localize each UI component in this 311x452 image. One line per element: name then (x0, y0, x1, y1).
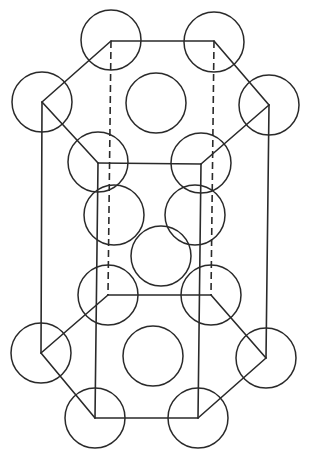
cell-edge (98, 163, 201, 164)
solid-edges (41, 41, 269, 418)
bottom-layer-atoms (11, 265, 296, 448)
atom-middle-left (84, 185, 144, 245)
cell-edge (214, 41, 269, 105)
cell-edge (266, 105, 269, 358)
atom-top-back-left (81, 10, 141, 70)
cell-edge (198, 164, 201, 418)
cell-edge (41, 353, 95, 418)
cell-edge (42, 41, 111, 102)
middle-layer-atoms (84, 185, 225, 286)
hidden-edges (108, 41, 214, 295)
cell-edge (198, 358, 266, 418)
cell-edge (211, 295, 266, 358)
atom-middle-center (131, 226, 191, 286)
hcp-unit-cell-diagram (0, 0, 311, 452)
cell-edge (95, 163, 98, 418)
cell-edge (41, 102, 42, 353)
hidden-edge (108, 41, 111, 295)
atom-top-center (126, 73, 186, 133)
atom-middle-right (165, 185, 225, 245)
hidden-edge (211, 41, 214, 295)
atom-bottom-center (123, 326, 183, 386)
top-layer-atoms (12, 10, 299, 193)
